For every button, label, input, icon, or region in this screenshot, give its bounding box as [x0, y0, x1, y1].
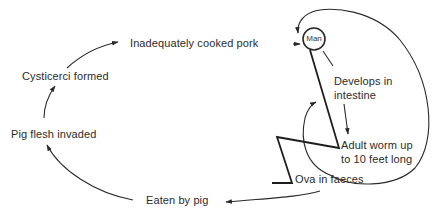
- label-pig-flesh-invaded: Pig flesh invaded: [11, 128, 96, 141]
- label-eaten-by-pig: Eaten by pig: [146, 194, 208, 207]
- label-develops-line2: intestine: [334, 89, 376, 102]
- label-adult-worm-line2: to 10 feet long: [341, 153, 412, 166]
- arrow-pigflesh-to-cysticerci: [44, 86, 55, 118]
- label-ova-in-faeces: Ova in faeces: [295, 173, 364, 186]
- arrow-develops-to-adult: [344, 104, 348, 134]
- arrow-ova-autoinfection: [303, 102, 330, 175]
- pointer-develops: [323, 51, 333, 66]
- tapeworm-lifecycle-diagram: Man Inadequately cooked pork Cysticerci …: [0, 0, 437, 221]
- man-label: Man: [304, 34, 324, 44]
- label-develops-line1: Develops in: [334, 75, 393, 88]
- arrow-eaten-to-pigflesh: [47, 145, 133, 200]
- label-cysticerci-formed: Cysticerci formed: [22, 70, 109, 83]
- arrow-ova-to-eaten: [226, 191, 320, 202]
- diagram-lines: [0, 0, 437, 221]
- label-inadequately-cooked-pork: Inadequately cooked pork: [130, 37, 258, 50]
- label-adult-worm-line1: Adult worm up: [341, 139, 413, 152]
- arrow-cysticerci-to-pork: [67, 42, 118, 68]
